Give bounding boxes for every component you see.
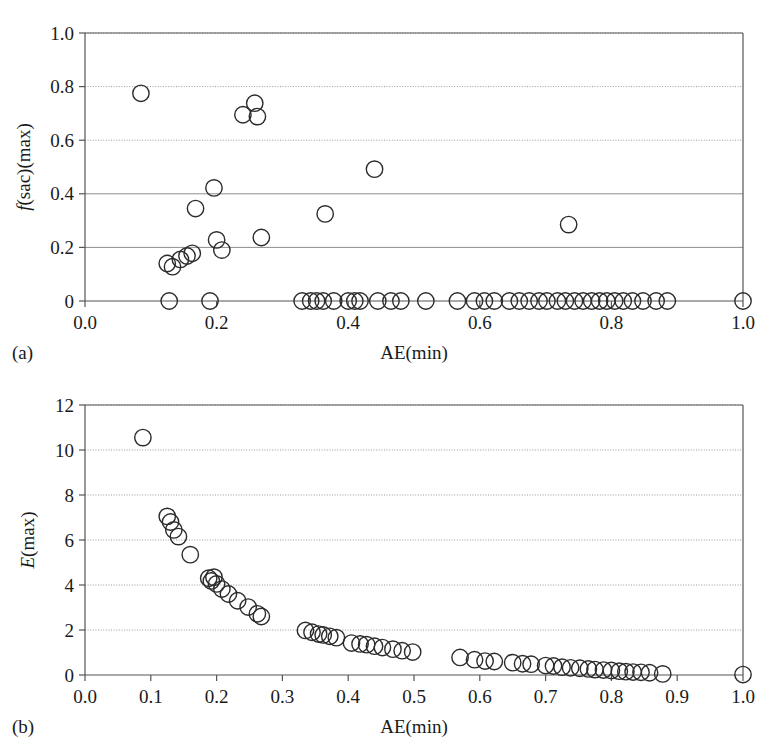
data-point-marker bbox=[477, 653, 493, 669]
y-axis-title: E(max) bbox=[17, 512, 39, 570]
y-tick-label: 0.6 bbox=[50, 130, 74, 151]
y-axis-title-symbol: E bbox=[17, 556, 38, 569]
data-point-marker bbox=[253, 608, 269, 624]
data-point-marker bbox=[187, 200, 203, 216]
y-tick-label: 6 bbox=[65, 530, 75, 551]
panel-tag-label: (b) bbox=[12, 716, 34, 738]
scatter-chart-b: 0246810120.00.10.20.30.40.50.60.70.80.91… bbox=[0, 378, 779, 755]
y-tick-label: 1.0 bbox=[50, 23, 74, 44]
x-tick-label: 0.6 bbox=[468, 312, 492, 333]
data-point-marker bbox=[253, 229, 269, 245]
x-tick-label: 0.9 bbox=[665, 686, 689, 707]
x-tick-label: 1.0 bbox=[731, 686, 755, 707]
y-axis-title-suffix: (sac)(max) bbox=[13, 123, 35, 205]
y-tick-label: 0.8 bbox=[50, 76, 74, 97]
x-tick-label: 0.5 bbox=[402, 686, 426, 707]
x-tick-label: 0.2 bbox=[205, 686, 229, 707]
data-point-marker bbox=[317, 206, 333, 222]
panel-a: 00.20.40.60.81.00.00.20.40.60.81.0f(sac)… bbox=[0, 0, 779, 377]
y-tick-label: 8 bbox=[65, 485, 75, 506]
x-tick-label: 0.4 bbox=[336, 686, 360, 707]
x-axis-title: AE(min) bbox=[380, 716, 448, 738]
figure-container: 00.20.40.60.81.00.00.20.40.60.81.0f(sac)… bbox=[0, 0, 779, 755]
x-axis-title: AE(min) bbox=[380, 342, 448, 364]
y-tick-label: 12 bbox=[55, 395, 74, 416]
y-axis-title-suffix: (max) bbox=[17, 512, 39, 557]
data-point-marker bbox=[452, 649, 468, 665]
x-tick-label: 0.6 bbox=[468, 686, 492, 707]
panel-b: 0246810120.00.10.20.30.40.50.60.70.80.91… bbox=[0, 378, 779, 755]
y-tick-label: 0.2 bbox=[50, 237, 74, 258]
data-series-group bbox=[133, 85, 751, 309]
x-tick-label: 0.8 bbox=[600, 686, 624, 707]
data-point-marker bbox=[404, 644, 420, 660]
data-point-marker bbox=[133, 85, 149, 101]
data-point-marker bbox=[135, 429, 151, 445]
y-axis-title: f(sac)(max) bbox=[13, 123, 35, 211]
x-tick-label: 0.8 bbox=[600, 312, 624, 333]
y-tick-label: 4 bbox=[65, 575, 75, 596]
y-tick-label: 10 bbox=[55, 440, 74, 461]
x-tick-label: 0.7 bbox=[534, 686, 558, 707]
y-axis-title-text: f(sac)(max) bbox=[13, 123, 35, 211]
scatter-chart-a: 00.20.40.60.81.00.00.20.40.60.81.0f(sac)… bbox=[0, 0, 779, 377]
data-point-marker bbox=[214, 242, 230, 258]
data-point-marker bbox=[486, 653, 502, 669]
data-point-marker bbox=[208, 232, 224, 248]
y-tick-label: 0.4 bbox=[50, 183, 74, 204]
x-tick-label: 0.2 bbox=[205, 312, 229, 333]
data-series-group bbox=[135, 429, 752, 682]
y-axis-title-text: E(max) bbox=[17, 512, 39, 570]
x-tick-label: 0.0 bbox=[73, 312, 97, 333]
panel-tag-label: (a) bbox=[12, 342, 33, 364]
y-tick-label: 0 bbox=[65, 291, 75, 312]
y-tick-label: 2 bbox=[65, 620, 75, 641]
x-tick-label: 0.1 bbox=[139, 686, 163, 707]
x-tick-label: 0.0 bbox=[73, 686, 97, 707]
data-point-marker bbox=[182, 546, 198, 562]
data-point-marker bbox=[366, 161, 382, 177]
y-tick-label: 0 bbox=[65, 665, 75, 686]
data-point-marker bbox=[560, 216, 576, 232]
x-tick-label: 0.4 bbox=[336, 312, 360, 333]
x-tick-label: 0.3 bbox=[271, 686, 295, 707]
x-tick-label: 1.0 bbox=[731, 312, 755, 333]
